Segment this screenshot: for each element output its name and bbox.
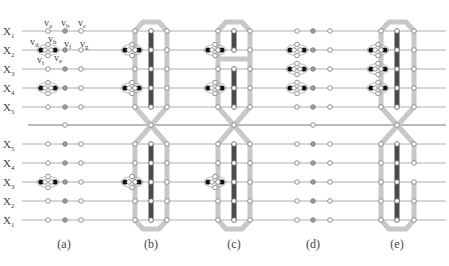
- open-node: [49, 180, 54, 185]
- open-node: [232, 123, 237, 128]
- open-node: [328, 218, 333, 223]
- open-node: [127, 180, 132, 185]
- open-node: [49, 48, 54, 53]
- panel-caption-b: (b): [144, 237, 158, 251]
- open-node: [395, 142, 400, 147]
- grey-node: [63, 199, 68, 204]
- open-node: [216, 67, 221, 72]
- open-node: [328, 48, 333, 53]
- open-node: [149, 67, 154, 72]
- open-node: [149, 161, 154, 166]
- panel-caption-d: (d): [306, 237, 320, 251]
- open-node: [165, 48, 170, 53]
- open-node: [376, 80, 381, 85]
- grey-node: [311, 67, 316, 72]
- open-node: [395, 48, 400, 53]
- open-node: [379, 199, 384, 204]
- row-label-x4-top: X4: [3, 82, 15, 97]
- grey-node: [63, 142, 68, 147]
- open-node: [216, 161, 221, 166]
- open-node: [213, 185, 218, 190]
- open-node: [328, 142, 333, 147]
- open-node: [213, 174, 218, 179]
- vertex-label-vc: vc: [78, 17, 86, 30]
- open-node: [46, 199, 51, 204]
- open-node: [133, 218, 138, 223]
- open-node: [248, 199, 253, 204]
- open-node: [379, 67, 384, 72]
- open-node: [295, 91, 300, 96]
- panel-caption-a: (a): [57, 237, 70, 251]
- open-node: [133, 142, 138, 147]
- open-node: [248, 48, 253, 53]
- open-node: [216, 86, 221, 91]
- open-node: [46, 67, 51, 72]
- grey-node: [63, 86, 68, 91]
- open-node: [395, 67, 400, 72]
- open-node: [63, 123, 68, 128]
- open-node: [130, 174, 135, 179]
- open-node: [165, 180, 170, 185]
- open-node: [412, 199, 417, 204]
- open-node: [248, 86, 253, 91]
- open-node: [412, 67, 417, 72]
- open-node: [210, 180, 215, 185]
- open-node: [149, 48, 154, 53]
- open-node: [216, 29, 221, 34]
- open-node: [328, 67, 333, 72]
- open-node: [295, 61, 300, 66]
- open-node: [412, 218, 417, 223]
- open-node: [79, 142, 84, 147]
- open-node: [130, 185, 135, 190]
- open-node: [133, 105, 138, 110]
- open-node: [133, 199, 138, 204]
- open-node: [149, 29, 154, 34]
- row-label-x1-bottom: X1: [3, 214, 15, 229]
- open-node: [46, 53, 51, 58]
- vertex-label-va: va: [44, 17, 53, 30]
- open-node: [213, 53, 218, 58]
- open-node: [295, 180, 300, 185]
- row-label-x3-top: X3: [3, 63, 15, 78]
- open-node: [79, 218, 84, 223]
- open-node: [248, 161, 253, 166]
- open-node: [149, 105, 154, 110]
- open-node: [46, 91, 51, 96]
- open-node: [311, 123, 316, 128]
- open-node: [248, 67, 253, 72]
- open-node: [216, 142, 221, 147]
- open-node: [412, 48, 417, 53]
- open-node: [133, 67, 138, 72]
- open-node: [130, 80, 135, 85]
- grey-node: [311, 48, 316, 53]
- open-node: [149, 86, 154, 91]
- open-node: [379, 180, 384, 185]
- open-node: [295, 142, 300, 147]
- open-node: [216, 180, 221, 185]
- grey-node: [311, 105, 316, 110]
- grey-node: [311, 29, 316, 34]
- open-node: [149, 218, 154, 223]
- open-node: [298, 67, 303, 72]
- open-node: [295, 29, 300, 34]
- open-node: [165, 29, 170, 34]
- open-node: [79, 105, 84, 110]
- open-node: [46, 80, 51, 85]
- open-node: [133, 48, 138, 53]
- open-node: [210, 86, 215, 91]
- grey-node: [311, 180, 316, 185]
- open-node: [46, 105, 51, 110]
- open-node: [395, 161, 400, 166]
- row-label-x1-top: X1: [3, 25, 15, 40]
- row-label-x3-bottom: X3: [3, 176, 15, 191]
- grey-node: [311, 142, 316, 147]
- open-node: [379, 218, 384, 223]
- open-node: [298, 86, 303, 91]
- open-node: [165, 105, 170, 110]
- row-label-x2-top: X2: [3, 44, 15, 59]
- grey-node: [311, 86, 316, 91]
- grey-node: [63, 218, 68, 223]
- open-node: [79, 180, 84, 185]
- open-node: [130, 91, 135, 96]
- open-node: [149, 199, 154, 204]
